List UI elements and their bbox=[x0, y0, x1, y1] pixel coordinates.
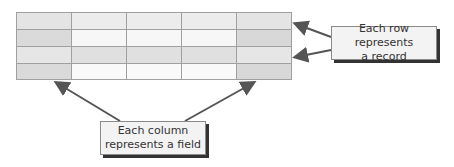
row-arrow-2 bbox=[296, 50, 331, 57]
column-callout-line1: Each column bbox=[101, 124, 205, 138]
column-arrow-2 bbox=[185, 83, 253, 121]
row-callout: Each row represents a record bbox=[331, 26, 437, 60]
column-arrow-1 bbox=[57, 83, 120, 121]
column-callout-line2: represents a field bbox=[101, 138, 205, 152]
row-arrow-1 bbox=[296, 24, 331, 37]
row-callout-line1: Each row represents bbox=[332, 22, 436, 50]
column-callout: Each column represents a field bbox=[100, 121, 206, 155]
row-callout-line2: a record bbox=[332, 50, 436, 64]
